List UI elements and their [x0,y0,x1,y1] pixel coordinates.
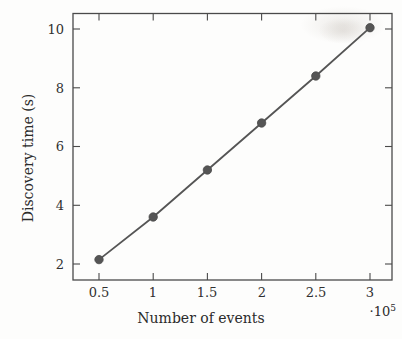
x-tick-label-2: 2 [258,285,266,300]
x-tick-label-1: 1 [149,285,157,300]
data-point [95,255,103,263]
data-point-markers [95,24,374,264]
data-point [149,213,157,221]
x-axis-title: Number of events [0,310,402,326]
x-tick-label-2-5: 2.5 [306,285,327,300]
data-point [312,72,320,80]
x-axis-exponent-power: 5 [390,303,396,313]
y-axis-title: Discovery time (s) [20,58,36,258]
data-point [257,119,265,127]
x-tick-label-1-5: 1.5 [197,285,218,300]
data-point [203,166,211,174]
x-axis-exponent-prefix: ·10 [370,304,391,319]
x-tick-label-3: 3 [366,285,374,300]
data-point [366,24,374,32]
plot-frame [73,14,392,281]
y-tick-label-2: 2 [28,257,64,272]
data-series-line [99,28,370,260]
chart-figure: 2 4 6 8 10 0.5 1 1.5 2 2.5 3 Number of e… [0,0,402,339]
x-axis-exponent: ·105 [370,303,396,319]
y-tick-label-10: 10 [28,22,64,37]
y-axis-ticks [73,29,392,264]
x-tick-label-0-5: 0.5 [89,285,110,300]
